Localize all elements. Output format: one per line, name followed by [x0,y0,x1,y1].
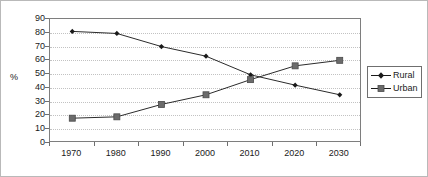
x-axis-tick-mark [227,142,228,146]
series-line-rural [72,31,339,94]
data-point-rural [70,29,75,34]
x-axis-tick-label: 2020 [274,148,314,158]
legend-label-urban: Urban [392,83,418,94]
y-axis-tick-label: 50 [19,69,45,78]
y-axis-tick-label: 60 [19,55,45,64]
data-point-rural [337,92,342,97]
series-line-urban [72,60,339,118]
data-point-rural [114,31,119,36]
data-point-urban [337,57,343,63]
x-axis-tick-label: 1980 [96,148,136,158]
x-axis-tick-mark [94,142,95,146]
x-axis-tick-label: 2030 [319,148,359,158]
data-point-urban [114,114,120,120]
y-axis-tick-label: 90 [19,14,45,23]
y-axis-tick-label: 80 [19,27,45,36]
x-axis-tick-marks [49,142,361,147]
x-axis-tick-mark [360,142,361,146]
data-point-urban [69,115,75,121]
legend-item-rural[interactable]: Rural [370,69,418,82]
x-axis-tick-label: 1990 [140,148,180,158]
y-axis-tick-label: 10 [19,124,45,133]
data-point-urban [292,63,298,69]
x-axis-tick-mark [138,142,139,146]
series-layer [50,19,362,143]
data-point-urban [158,101,164,107]
y-axis-tick-label: 30 [19,96,45,105]
chart-legend: Rural Urban [367,66,422,98]
x-axis-tick-label: 2000 [185,148,225,158]
x-axis-tick-mark [183,142,184,146]
y-axis-tick-labels: 0102030405060708090 [15,1,45,177]
x-axis-tick-mark [272,142,273,146]
y-axis-tick-label: 40 [19,82,45,91]
data-point-rural [159,44,164,49]
y-axis-tick-label: 70 [19,41,45,50]
data-point-rural [203,54,208,59]
legend-label-rural: Rural [392,70,415,81]
x-axis-tick-label: 2010 [230,148,270,158]
plot-area [49,18,361,142]
legend-item-urban[interactable]: Urban [370,82,418,95]
data-point-rural [293,83,298,88]
legend-marker-diamond-icon [370,70,392,81]
data-point-urban [248,77,254,83]
data-point-urban [203,92,209,98]
x-axis-tick-mark [316,142,317,146]
x-axis-tick-label: 1970 [51,148,91,158]
x-axis-tick-mark [49,142,50,146]
x-axis-tick-labels: 1970198019902000201020202030 [49,148,361,162]
y-axis-tick-label: 20 [19,110,45,119]
legend-marker-square-icon [370,83,392,94]
y-axis-tick-label: 0 [19,138,45,147]
chart-figure: % 0102030405060708090 197019801990200020… [0,0,428,177]
